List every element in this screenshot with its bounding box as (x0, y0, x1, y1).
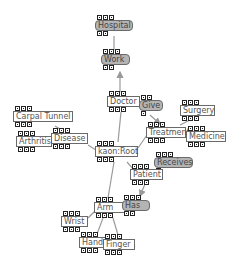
patient-bottom-handles (132, 180, 149, 185)
node-handle-icon[interactable] (103, 31, 108, 36)
node-label: Work (101, 54, 130, 65)
disease-bottom-handles (53, 144, 70, 149)
node-label: Carpal Tunnel (13, 111, 73, 122)
node-has[interactable]: Has (122, 195, 150, 216)
node-handle-icon[interactable] (160, 138, 165, 143)
node-finger[interactable]: Finger (103, 234, 135, 255)
node-label: Has (122, 200, 150, 211)
node-handle-icon[interactable] (111, 250, 116, 255)
node-handle-icon[interactable] (18, 147, 23, 152)
node-handle-icon[interactable] (109, 157, 114, 162)
node-handle-icon[interactable] (194, 116, 199, 121)
treatment-bottom-handles (148, 138, 165, 143)
carpal-tunnel-bottom-handles (15, 122, 32, 127)
node-handle-icon[interactable] (144, 180, 149, 185)
concept-graph-canvas[interactable]: HospitalWorkDoctorGiveCarpal TunnelSurge… (0, 0, 240, 271)
node-handle-icon[interactable] (69, 227, 74, 232)
node-label: Doctor (107, 96, 140, 107)
node-handle-icon[interactable] (109, 107, 114, 112)
node-label: Arthritis (16, 136, 52, 147)
node-handle-icon[interactable] (188, 142, 193, 147)
node-handle-icon[interactable] (148, 138, 153, 143)
node-handle-icon[interactable] (182, 116, 187, 121)
node-label: Medicine (186, 131, 226, 142)
node-handle-icon[interactable] (96, 213, 101, 218)
node-patient[interactable]: Patient (130, 164, 163, 185)
hospital-bottom-handles (97, 31, 108, 36)
node-handle-icon[interactable] (103, 65, 108, 70)
node-doctor[interactable]: Doctor (107, 91, 140, 112)
node-handle-icon[interactable] (194, 142, 199, 147)
node-handle-icon[interactable] (63, 227, 68, 232)
node-label: Patient (130, 169, 163, 180)
node-handle-icon[interactable] (93, 248, 98, 253)
node-label: Hospital (95, 20, 133, 31)
node-handle-icon[interactable] (97, 31, 102, 36)
doctor-bottom-handles (109, 107, 126, 112)
edge-arm-to-finger (113, 218, 118, 235)
node-handle-icon[interactable] (141, 111, 146, 116)
kaon-root-bottom-handles (97, 157, 114, 162)
node-label: Give (139, 100, 163, 111)
node-handle-icon[interactable] (97, 157, 102, 162)
node-handle-icon[interactable] (59, 144, 64, 149)
edge-kaon-root-to-arm (108, 162, 114, 198)
node-label: Finger (103, 239, 135, 250)
node-hospital[interactable]: Hospital (95, 15, 133, 36)
surgery-bottom-handles (182, 116, 199, 121)
node-handle-icon[interactable] (105, 250, 110, 255)
node-kaon-root[interactable]: kaon:Root (95, 141, 138, 162)
node-wrist[interactable]: Wrist (61, 211, 88, 232)
node-handle-icon[interactable] (21, 122, 26, 127)
give-bottom-handles (141, 111, 146, 116)
node-handle-icon[interactable] (188, 116, 193, 121)
node-handle-icon[interactable] (121, 107, 126, 112)
node-handle-icon[interactable] (103, 157, 108, 162)
node-carpal-tunnel[interactable]: Carpal Tunnel (13, 106, 73, 127)
node-surgery[interactable]: Surgery (180, 100, 215, 121)
node-handle-icon[interactable] (30, 147, 35, 152)
node-handle-icon[interactable] (102, 213, 107, 218)
node-label: Treatment (146, 127, 186, 138)
node-label: Surgery (180, 105, 215, 116)
node-disease[interactable]: Disease (51, 128, 88, 149)
hand-bottom-handles (81, 248, 98, 253)
edge-kaon-root-to-doctor (118, 112, 121, 142)
node-handle-icon[interactable] (109, 65, 114, 70)
node-handle-icon[interactable] (15, 122, 20, 127)
node-handle-icon[interactable] (130, 211, 135, 216)
node-handle-icon[interactable] (115, 107, 120, 112)
work-bottom-handles (103, 65, 114, 70)
node-handle-icon[interactable] (81, 248, 86, 253)
arthritis-bottom-handles (18, 147, 35, 152)
has-bottom-handles (124, 211, 135, 216)
node-handle-icon[interactable] (24, 147, 29, 152)
node-handle-icon[interactable] (154, 138, 159, 143)
node-arthritis[interactable]: Arthritis (16, 131, 52, 152)
node-handle-icon[interactable] (53, 144, 58, 149)
node-label: Disease (51, 133, 88, 144)
node-handle-icon[interactable] (27, 122, 32, 127)
node-handle-icon[interactable] (65, 144, 70, 149)
node-handle-icon[interactable] (124, 211, 129, 216)
node-handle-icon[interactable] (108, 213, 113, 218)
node-treatment[interactable]: Treatment (146, 122, 186, 143)
node-handle-icon[interactable] (117, 250, 122, 255)
node-handle-icon[interactable] (138, 180, 143, 185)
node-handle-icon[interactable] (132, 180, 137, 185)
finger-bottom-handles (105, 250, 122, 255)
node-handle-icon[interactable] (87, 248, 92, 253)
node-label: kaon:Root (95, 146, 138, 157)
node-work[interactable]: Work (101, 49, 130, 70)
wrist-bottom-handles (63, 227, 80, 232)
node-give[interactable]: Give (139, 95, 163, 116)
node-label: Wrist (61, 216, 88, 227)
node-handle-icon[interactable] (200, 142, 205, 147)
medicine-bottom-handles (188, 142, 205, 147)
node-medicine[interactable]: Medicine (186, 126, 226, 147)
arm-bottom-handles (96, 213, 113, 218)
